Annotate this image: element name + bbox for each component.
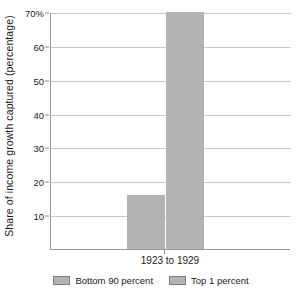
x-axis-category-label: 1923 to 1929 <box>50 255 290 266</box>
y-axis-tick-label: 30 <box>33 143 44 154</box>
y-axis-tick-mark <box>45 13 49 14</box>
legend-label: Bottom 90 percent <box>75 275 153 286</box>
y-axis-tick-mark <box>45 114 49 115</box>
legend-item[interactable]: Top 1 percent <box>169 275 249 286</box>
bar-top-1-percent[interactable] <box>166 12 204 249</box>
legend-swatch-icon <box>53 276 70 285</box>
y-axis-tick-mark <box>45 46 49 47</box>
y-axis-tick-label: 50 <box>33 75 44 86</box>
bar-bottom-90-percent[interactable] <box>127 195 165 249</box>
y-axis-tick-label: 10 <box>33 211 44 222</box>
y-axis-tick-mark <box>45 182 49 183</box>
legend-label: Top 1 percent <box>191 275 249 286</box>
y-axis-tick-mark <box>45 80 49 81</box>
plot-area <box>50 13 290 250</box>
y-axis-title-text: Share of income growth captured (percent… <box>3 15 15 237</box>
y-axis-tick-label: 40 <box>33 109 44 120</box>
legend-swatch-icon <box>169 276 186 285</box>
chart-legend: Bottom 90 percentTop 1 percent <box>0 275 302 286</box>
y-axis-tick-mark <box>45 148 49 149</box>
y-axis-tick-mark <box>45 216 49 217</box>
y-axis-tick-labels: 70%605040302010 <box>18 0 49 260</box>
bar-chart: Share of income growth captured (percent… <box>0 0 302 300</box>
x-axis-tick-mark <box>164 250 165 254</box>
y-axis-tick-label: 20 <box>33 177 44 188</box>
y-axis-tick-label: 60 <box>33 41 44 52</box>
legend-item[interactable]: Bottom 90 percent <box>53 275 153 286</box>
y-axis-tick-label: 70% <box>25 8 44 19</box>
y-axis-title: Share of income growth captured (percent… <box>0 0 18 252</box>
